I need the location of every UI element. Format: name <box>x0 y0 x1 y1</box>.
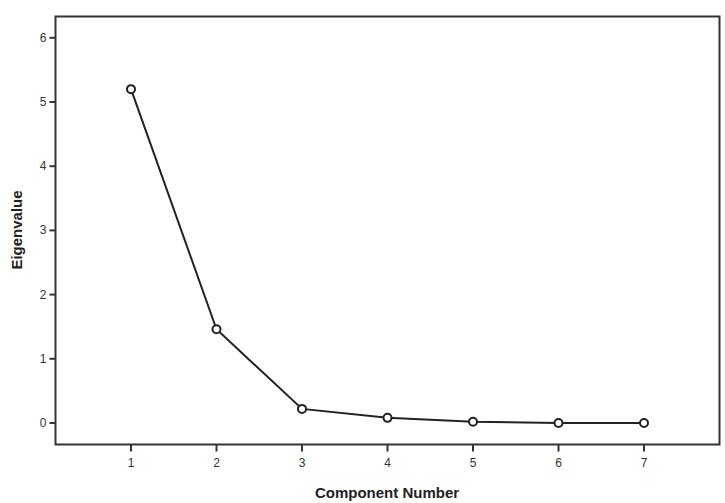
y-tick-label: 0 <box>40 416 47 430</box>
data-point-marker <box>640 419 648 427</box>
x-axis-title: Component Number <box>315 484 459 501</box>
data-point-marker <box>384 414 392 422</box>
y-tick-label: 6 <box>40 31 47 45</box>
y-tick-label: 4 <box>40 159 47 173</box>
x-tick-label: 7 <box>641 456 648 470</box>
y-tick-label: 2 <box>40 288 47 302</box>
scree-plot: 0123456 1234567 Eigenvalue Component Num… <box>0 0 725 503</box>
data-point-marker <box>469 418 477 426</box>
y-tick-label: 1 <box>40 352 47 366</box>
x-tick-label: 4 <box>384 456 391 470</box>
y-axis-title: Eigenvalue <box>8 190 25 269</box>
data-point-marker <box>555 419 563 427</box>
x-tick-label: 1 <box>128 456 135 470</box>
data-point-marker <box>213 325 221 333</box>
y-tick-label: 5 <box>40 95 47 109</box>
chart-background <box>0 0 725 503</box>
x-tick-label: 3 <box>299 456 306 470</box>
x-tick-label: 2 <box>213 456 220 470</box>
x-tick-label: 5 <box>470 456 477 470</box>
x-tick-label: 6 <box>555 456 562 470</box>
y-tick-label: 3 <box>40 223 47 237</box>
data-point-marker <box>298 405 306 413</box>
data-point-marker <box>127 85 135 93</box>
